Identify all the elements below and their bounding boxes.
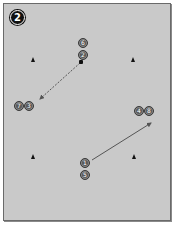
cone-icon — [31, 154, 35, 159]
ball-icon — [79, 60, 83, 64]
player-marker-1: 1 — [80, 158, 90, 168]
cone-icon — [132, 154, 136, 159]
player-marker-6: 6 — [78, 38, 88, 48]
step-number-badge: 2 — [10, 10, 25, 25]
player-marker-5: 5 — [80, 170, 90, 180]
player-marker-7: 7 — [14, 101, 24, 111]
player-marker-8: 8 — [144, 106, 154, 116]
cone-icon — [31, 57, 35, 62]
pass-arrow-dashed — [40, 63, 80, 99]
player-marker-3: 3 — [24, 101, 34, 111]
player-marker-2: 2 — [78, 50, 88, 60]
run-arrow-solid — [92, 123, 151, 160]
player-marker-4: 4 — [134, 106, 144, 116]
cone-icon — [131, 57, 135, 62]
